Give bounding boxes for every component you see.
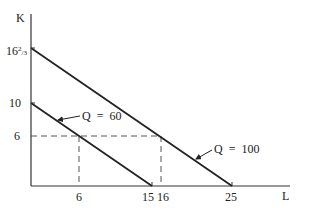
x-tick-15: 15: [142, 191, 154, 203]
arrow-q100: [196, 150, 212, 159]
y-tick-16-2-3: 162/3: [6, 43, 27, 59]
x-tick-16: 16: [157, 191, 169, 203]
label-q100: Q = 100: [214, 143, 259, 155]
arrow-q60: [58, 116, 80, 120]
x-tick-6: 6: [76, 191, 82, 203]
k-axis-label: K: [16, 12, 25, 24]
y-tick-6: 6: [14, 130, 20, 142]
l-axis-label: L: [282, 190, 289, 202]
label-q60: Q = 60: [82, 110, 121, 122]
isoquant-q100: [31, 48, 232, 186]
y-tick-10: 10: [9, 97, 21, 109]
x-tick-25: 25: [225, 191, 237, 203]
isoquant-chart: [0, 0, 310, 213]
